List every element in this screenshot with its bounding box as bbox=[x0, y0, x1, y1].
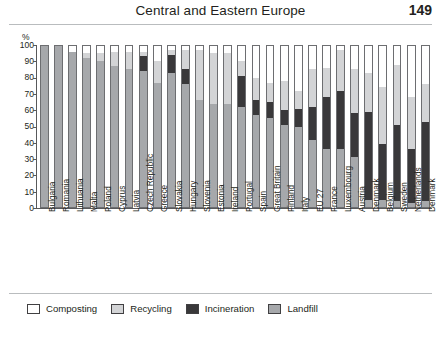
x-label-estonia: Estonia bbox=[217, 184, 226, 212]
segment-composting bbox=[280, 45, 289, 81]
segment-composting bbox=[96, 45, 105, 53]
x-label-lithuania: Lithuania bbox=[76, 178, 85, 212]
segment-recycling bbox=[308, 69, 317, 106]
segment-composting bbox=[350, 45, 359, 69]
segment-incineration bbox=[350, 113, 359, 157]
x-label-ireland: Ireland bbox=[231, 187, 240, 212]
page-number: 149 bbox=[409, 2, 432, 18]
segment-composting bbox=[153, 45, 162, 61]
segment-composting bbox=[223, 45, 232, 53]
y-tick-mark-0 bbox=[33, 208, 37, 209]
segment-recycling bbox=[421, 84, 430, 121]
segment-incineration bbox=[280, 110, 289, 125]
segment-recycling bbox=[393, 65, 402, 125]
segment-composting bbox=[237, 45, 246, 61]
x-label-luxembourg: Luxembourg bbox=[344, 166, 353, 212]
x-label-eu-27: EU 27 bbox=[316, 189, 325, 212]
bar-latvia[interactable] bbox=[125, 45, 134, 208]
segment-recycling bbox=[237, 61, 246, 76]
legend-swatch-composting bbox=[27, 304, 40, 314]
x-label-slovenia: Slovenia bbox=[203, 180, 212, 212]
segment-recycling bbox=[322, 68, 331, 97]
segment-composting bbox=[209, 45, 218, 53]
x-label-denmark: Denmark bbox=[372, 178, 381, 212]
x-label-spain: Spain bbox=[259, 191, 268, 212]
legend-item-recycling[interactable]: Recycling bbox=[111, 303, 172, 314]
segment-incineration bbox=[167, 55, 176, 73]
x-label-denmark: Denmark bbox=[428, 178, 437, 212]
x-label-great-britain: Great Britain bbox=[273, 165, 282, 212]
segment-recycling bbox=[252, 78, 261, 101]
x-label-bulgaria: Bulgaria bbox=[48, 182, 57, 212]
bar-poland[interactable] bbox=[96, 45, 105, 208]
y-tick-mark-60 bbox=[33, 110, 37, 111]
segment-composting bbox=[308, 45, 317, 69]
segment-recycling bbox=[294, 91, 303, 109]
x-label-hungary: Hungary bbox=[189, 181, 198, 212]
legend-swatch-landfill bbox=[268, 304, 281, 314]
y-tick-mark-100 bbox=[33, 45, 37, 46]
segment-recycling bbox=[96, 53, 105, 61]
legend-swatch-incineration bbox=[186, 304, 199, 314]
segment-recycling bbox=[266, 83, 275, 103]
legend-swatch-recycling bbox=[111, 304, 124, 314]
x-label-finland: Finland bbox=[287, 185, 296, 212]
segment-recycling bbox=[181, 50, 190, 70]
legend-label-incineration: Incineration bbox=[205, 303, 255, 314]
segment-recycling bbox=[378, 87, 387, 144]
segment-recycling bbox=[209, 53, 218, 104]
segment-recycling bbox=[350, 69, 359, 113]
segment-composting bbox=[393, 45, 402, 65]
y-tick-mark-30 bbox=[33, 159, 37, 160]
segment-composting bbox=[364, 45, 373, 73]
y-tick-mark-10 bbox=[33, 192, 37, 193]
legend-label-recycling: Recycling bbox=[130, 303, 172, 314]
legend-item-composting[interactable]: Composting bbox=[27, 303, 97, 314]
segment-incineration bbox=[308, 107, 317, 140]
segment-incineration bbox=[139, 56, 148, 71]
x-label-belgium: Belgium bbox=[386, 182, 395, 212]
segment-recycling bbox=[336, 50, 345, 91]
x-label-france: France bbox=[330, 186, 339, 212]
segment-recycling bbox=[407, 97, 416, 149]
x-label-austria: Austria bbox=[358, 186, 367, 212]
x-label-italy: Italy bbox=[301, 197, 310, 212]
segment-incineration bbox=[266, 102, 275, 118]
y-tick-mark-50 bbox=[33, 127, 37, 128]
x-label-cyprus: Cyprus bbox=[118, 186, 127, 212]
bar-italy[interactable] bbox=[294, 45, 303, 208]
legend-label-landfill: Landfill bbox=[287, 303, 317, 314]
x-label-malta: Malta bbox=[90, 192, 99, 212]
segment-recycling bbox=[110, 52, 119, 67]
chart-legend: CompostingRecyclingIncinerationLandfill bbox=[9, 293, 432, 328]
bar-cyprus[interactable] bbox=[110, 45, 119, 208]
segment-incineration bbox=[322, 97, 331, 149]
segment-incineration bbox=[237, 76, 246, 107]
legend-items: CompostingRecyclingIncinerationLandfill bbox=[27, 303, 318, 314]
segment-composting bbox=[378, 45, 387, 87]
stacked-bar-chart: % 0102030405060708090100 BulgariaRomania… bbox=[0, 26, 441, 338]
segment-incineration bbox=[294, 109, 303, 127]
segment-recycling bbox=[223, 53, 232, 104]
x-label-sweden: Sweden bbox=[400, 182, 409, 212]
bar-france[interactable] bbox=[322, 45, 331, 208]
y-tick-mark-90 bbox=[33, 61, 37, 62]
legend-label-composting: Composting bbox=[46, 303, 97, 314]
segment-recycling bbox=[364, 73, 373, 112]
x-label-greece: Greece bbox=[160, 185, 169, 212]
x-label-portugal: Portugal bbox=[245, 181, 254, 212]
x-label-netherlands: Netherlands bbox=[414, 167, 423, 212]
segment-recycling bbox=[153, 61, 162, 82]
y-tick-mark-70 bbox=[33, 94, 37, 95]
segment-composting bbox=[322, 45, 331, 68]
legend-item-incineration[interactable]: Incineration bbox=[186, 303, 255, 314]
segment-composting bbox=[421, 45, 430, 84]
bar-eu-27[interactable] bbox=[308, 45, 317, 208]
segment-composting bbox=[294, 45, 303, 91]
segment-composting bbox=[82, 45, 91, 53]
segment-recycling bbox=[125, 52, 134, 70]
legend-item-landfill[interactable]: Landfill bbox=[268, 303, 317, 314]
y-tick-mark-20 bbox=[33, 175, 37, 176]
x-label-latvia: Latvia bbox=[132, 190, 141, 212]
x-label-poland: Poland bbox=[104, 186, 113, 212]
